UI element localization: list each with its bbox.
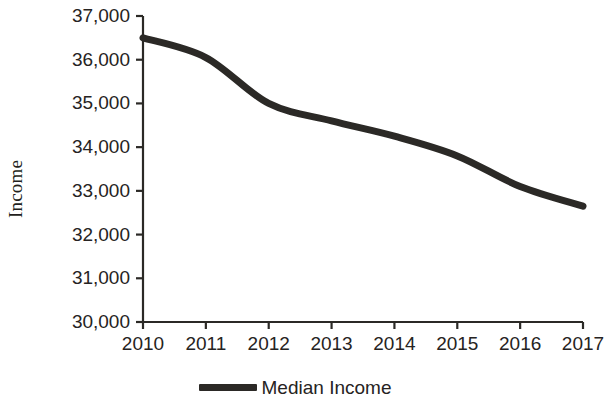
x-axis-tick-label: 2015 [436, 334, 478, 353]
y-axis-tick-label: 31,000 [20, 268, 130, 287]
x-axis-tick-label: 2017 [562, 334, 604, 353]
y-axis-tick-labels: 37,00036,00035,00034,00033,00032,00031,0… [20, 0, 130, 409]
x-axis-tick-label: 2016 [499, 334, 541, 353]
y-axis-tick-label: 33,000 [20, 181, 130, 200]
y-axis-tick-label: 34,000 [20, 137, 130, 156]
legend-line-swatch-median-income [199, 384, 257, 391]
x-axis-tick-label: 2014 [373, 334, 415, 353]
series-line-median-income [143, 38, 583, 206]
y-axis-tick-label: 32,000 [20, 225, 130, 244]
y-axis-tick-label: 35,000 [20, 93, 130, 112]
x-axis-tick-label: 2012 [248, 334, 290, 353]
legend-label-median-income: Median Income [262, 378, 392, 397]
y-axis-tick-label: 37,000 [20, 6, 130, 25]
x-axis-tick-label: 2013 [310, 334, 352, 353]
y-axis-tick-label: 36,000 [20, 50, 130, 69]
chart-legend: Median Income [0, 378, 590, 397]
x-axis-tick-label: 2011 [185, 334, 226, 353]
x-axis-tick-label: 2010 [122, 334, 164, 353]
y-axis-tick-label: 30,000 [20, 312, 130, 331]
